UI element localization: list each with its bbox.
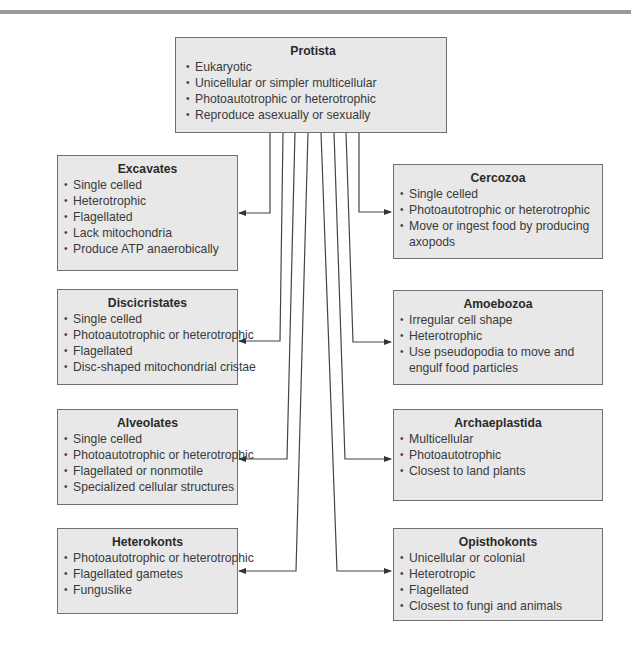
cercozoa-box: Cercozoa Single celled Photoautotrophic … <box>393 164 603 259</box>
list-item: Heterotrophic <box>64 193 231 209</box>
excavates-box: Excavates Single celled Heterotrophic Fl… <box>57 155 238 271</box>
list-item: Flagellated <box>64 343 231 359</box>
list-item: Use pseudopodia to move and engulf food … <box>400 344 596 376</box>
list-item: Multicellular <box>400 431 596 447</box>
arrow-to-opisthokonts <box>321 132 391 571</box>
list-item: Heterotrophic <box>400 328 596 344</box>
list-item: Flagellated gametes <box>64 566 231 582</box>
box-title: Discicristates <box>64 295 231 311</box>
discicristates-box: Discicristates Single celled Photoautotr… <box>57 289 238 385</box>
list-item: Flagellated or nonmotile <box>64 463 231 479</box>
list-item: Photoautotrophic <box>400 447 596 463</box>
arrow-to-excavates <box>239 132 270 213</box>
list-item: Photoautotrophic or heterotrophic <box>186 91 440 107</box>
list-item: Photoautotrophic or heterotrophic <box>400 202 596 218</box>
list-item: Unicellular or simpler multicellular <box>186 75 440 91</box>
list-item: Specialized cellular structures <box>64 479 231 495</box>
box-title: Heterokonts <box>64 534 231 550</box>
list-item: Move or ingest food by producing axopods <box>400 218 596 250</box>
list-item: Photoautotrophic or heterotrophic <box>64 550 231 566</box>
list-item: Single celled <box>64 177 231 193</box>
box-title: Cercozoa <box>400 170 596 186</box>
box-title: Alveolates <box>64 415 231 431</box>
box-title: Amoebozoa <box>400 296 596 312</box>
arrow-to-alveolates <box>239 132 295 459</box>
box-title: Archaeplastida <box>400 415 596 431</box>
list-item: Irregular cell shape <box>400 312 596 328</box>
box-title: Opisthokonts <box>400 534 596 550</box>
list-item: Closest to fungi and animals <box>400 598 596 614</box>
list-item: Flagellated <box>64 209 231 225</box>
list-item: Photoautotrophic or heterotrophic <box>64 447 231 463</box>
arrow-to-heterokonts <box>239 132 308 571</box>
archaeplastida-box: Archaeplastida Multicellular Photoautotr… <box>393 409 603 501</box>
alveolates-box: Alveolates Single celled Photoautotrophi… <box>57 409 238 505</box>
list-item: Eukaryotic <box>186 59 440 75</box>
list-item: Produce ATP anaerobically <box>64 241 231 257</box>
arrow-to-amoebozoa <box>346 132 391 342</box>
list-item: Reproduce asexually or sexually <box>186 107 440 123</box>
list-item: Photoautotrophic or heterotrophic <box>64 327 231 343</box>
list-item: Single celled <box>64 431 231 447</box>
list-item: Funguslike <box>64 582 231 598</box>
list-item: Unicellular or colonial <box>400 550 596 566</box>
box-title: Excavates <box>64 161 231 177</box>
arrow-to-archaeplastida <box>334 132 391 459</box>
protista-box: Protista Eukaryotic Unicellular or simpl… <box>175 37 447 133</box>
list-item: Lack mitochondria <box>64 225 231 241</box>
list-item: Disc-shaped mitochondrial cristae <box>64 359 231 375</box>
list-item: Single celled <box>400 186 596 202</box>
list-item: Closest to land plants <box>400 463 596 479</box>
list-item: Flagellated <box>400 582 596 598</box>
list-item: Heterotropic <box>400 566 596 582</box>
opisthokonts-box: Opisthokonts Unicellular or colonial Het… <box>393 528 603 621</box>
arrow-to-discicristates <box>239 132 283 341</box>
amoebozoa-box: Amoebozoa Irregular cell shape Heterotro… <box>393 290 603 385</box>
heterokonts-box: Heterokonts Photoautotrophic or heterotr… <box>57 528 238 614</box>
arrow-to-cercozoa <box>359 132 391 212</box>
box-title: Protista <box>186 43 440 59</box>
list-item: Single celled <box>64 311 231 327</box>
